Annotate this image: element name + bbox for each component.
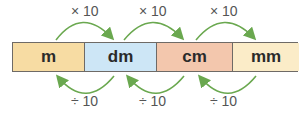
- divide-arrow-3: [200, 76, 256, 93]
- unit-strip: m dm cm mm: [12, 42, 298, 72]
- multiply-arrow-1: [56, 22, 112, 40]
- unit-dm: dm: [85, 43, 157, 71]
- divide-arrow-1: [58, 76, 114, 93]
- divide-arrow-2: [128, 76, 184, 93]
- unit-mm: mm: [233, 43, 299, 71]
- multiply-arrow-2: [124, 22, 182, 40]
- divide-label-3: ÷ 10: [210, 93, 237, 109]
- multiply-arrow-3: [196, 22, 254, 40]
- unit-m: m: [13, 43, 85, 71]
- divide-label-2: ÷ 10: [139, 93, 166, 109]
- divide-label-1: ÷ 10: [71, 93, 98, 109]
- multiply-label-1: × 10: [71, 3, 99, 19]
- multiply-label-2: × 10: [139, 3, 167, 19]
- unit-cm: cm: [157, 43, 233, 71]
- multiply-label-3: × 10: [210, 3, 238, 19]
